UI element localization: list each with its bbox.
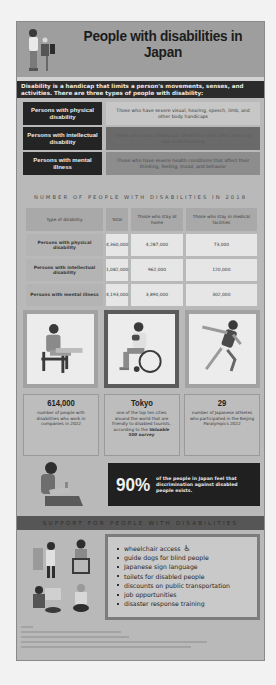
type-row: Persons with intellectual disability Tho… — [23, 127, 260, 150]
bullet-icon — [117, 557, 119, 559]
stat-value: 614,000 — [30, 398, 93, 408]
discrimination-callout: 90% of the people in Japan feel that dis… — [23, 460, 260, 510]
type-label: Persons with intellectual disability — [23, 127, 102, 150]
support-item: Japanese sign language — [117, 562, 257, 571]
stat-value: Tokyo — [110, 398, 173, 408]
stat-description: one of the top ten cities around the wor… — [105, 408, 179, 438]
sources-footer — [21, 626, 261, 651]
support-people-illustration — [23, 534, 103, 620]
paralympic-runner-image — [185, 310, 260, 388]
source-link[interactable] — [21, 631, 121, 633]
illustration-row — [23, 310, 260, 392]
table-row: Persons with mental illness 4,193,000 3,… — [26, 284, 257, 306]
type-label: Persons with mental illness — [23, 152, 102, 175]
support-item-label: guide dogs for blind people — [124, 553, 209, 562]
support-item-label: toilets for disabled people — [124, 572, 205, 581]
callout-text: of the people in Japan feel that discrim… — [152, 476, 254, 494]
column-header: Those who stay at home — [131, 208, 182, 231]
bullet-icon — [117, 548, 119, 550]
runner-icon — [189, 314, 256, 384]
person-in-wheelchair-image — [104, 310, 179, 388]
cell-facilities: 302,000 — [186, 284, 257, 306]
support-list-box: wheelchair access♿ guide dogs for blind … — [105, 534, 260, 620]
support-item-label: Japanese sign language — [124, 562, 198, 571]
infographic-poster: People with disabilities in Japan Disabi… — [16, 21, 265, 661]
column-header: Type of disability — [26, 208, 103, 231]
support-item-label: job opportunities — [124, 590, 177, 599]
source-link[interactable] — [21, 646, 191, 648]
table-title: NUMBER OF PEOPLE WITH DISABILITIES IN 20… — [17, 194, 264, 200]
cell-facilities: 120,000 — [186, 259, 257, 281]
table-header-row: Type of disability Total Those who stay … — [26, 208, 257, 231]
support-item: discounts on public transportation — [117, 581, 257, 590]
table-row: Persons with intellectual disability 1,0… — [26, 259, 257, 281]
person-with-cart-illustration — [23, 26, 63, 74]
cell-total: 4,360,000 — [106, 234, 128, 256]
stat-card: 614,000 number of people with disabiliti… — [23, 394, 99, 456]
column-header: Those who stay in medical facilities — [186, 208, 257, 231]
row-label: Persons with intellectual disability — [26, 259, 103, 281]
support-item: guide dogs for blind people — [117, 553, 257, 562]
column-header: Total — [106, 208, 128, 231]
stat-value: 29 — [191, 398, 254, 408]
type-label: Persons with physical disability — [23, 102, 102, 125]
support-item-label: wheelchair access — [124, 544, 181, 553]
sitting-person-illustration — [35, 460, 85, 510]
support-item: job opportunities — [117, 590, 257, 599]
type-description: Those who have intellectual disabilities… — [106, 127, 260, 150]
bullet-icon — [117, 566, 119, 568]
seated-person-icon — [27, 314, 94, 384]
cell-home: 3,890,000 — [131, 284, 182, 306]
bullet-icon — [117, 575, 119, 577]
stats-row: 614,000 number of people with disabiliti… — [23, 394, 260, 456]
row-label: Persons with mental illness — [26, 284, 103, 306]
callout-value: 90% — [116, 474, 150, 496]
type-description: Those who have severe health conditions … — [106, 152, 260, 175]
bullet-icon — [117, 584, 119, 586]
wheelchair-person-icon — [108, 314, 175, 384]
stat-card: Tokyo one of the top ten cities around t… — [104, 394, 180, 456]
disability-types: Persons with physical disability Those w… — [23, 102, 260, 177]
stat-description: number of people with disabilities who w… — [24, 408, 98, 427]
bullet-icon — [117, 594, 119, 596]
source-link[interactable] — [21, 636, 129, 638]
statistics-table: Type of disability Total Those who stay … — [23, 205, 260, 309]
page-title: People with disabilities in Japan — [75, 28, 251, 60]
row-label: Persons with physical disability — [26, 234, 103, 256]
cell-facilities: 73,000 — [186, 234, 257, 256]
cell-total: 1,082,000 — [106, 259, 128, 281]
support-item: toilets for disabled people — [117, 572, 257, 581]
sources-heading — [21, 626, 33, 628]
wheelchair-icon: ♿ — [184, 545, 191, 553]
support-item: wheelchair access♿ — [117, 544, 257, 553]
cell-total: 4,193,000 — [106, 284, 128, 306]
bullet-icon — [117, 603, 119, 605]
cell-home: 4,287,000 — [131, 234, 182, 256]
source-link[interactable] — [21, 641, 207, 643]
support-item-label: discounts on public transportation — [124, 581, 230, 590]
callout-box: 90% of the people in Japan feel that dis… — [108, 463, 260, 506]
support-item-label: disaster response training — [124, 599, 205, 608]
support-section-title: SUPPORT FOR PEOPLE WITH DISABILITIES — [17, 516, 264, 530]
stat-card: 29 number of Japanese athletes who parti… — [184, 394, 260, 456]
header: People with disabilities in Japan — [17, 22, 264, 77]
type-row: Persons with mental illness Those who ha… — [23, 152, 260, 175]
support-list: wheelchair access♿ guide dogs for blind … — [117, 544, 257, 608]
type-row: Persons with physical disability Those w… — [23, 102, 260, 125]
table-row: Persons with physical disability 4,360,0… — [26, 234, 257, 256]
support-item: disaster response training — [117, 599, 257, 608]
type-description: Those who have severe visual, hearing, s… — [106, 102, 260, 125]
person-seated-working-image — [23, 310, 98, 388]
cell-home: 962,000 — [131, 259, 182, 281]
intro-text: Disability is a handicap that limits a p… — [17, 81, 264, 98]
support-section: wheelchair access♿ guide dogs for blind … — [21, 534, 262, 622]
stat-description: number of Japanese athletes who particip… — [185, 408, 259, 427]
